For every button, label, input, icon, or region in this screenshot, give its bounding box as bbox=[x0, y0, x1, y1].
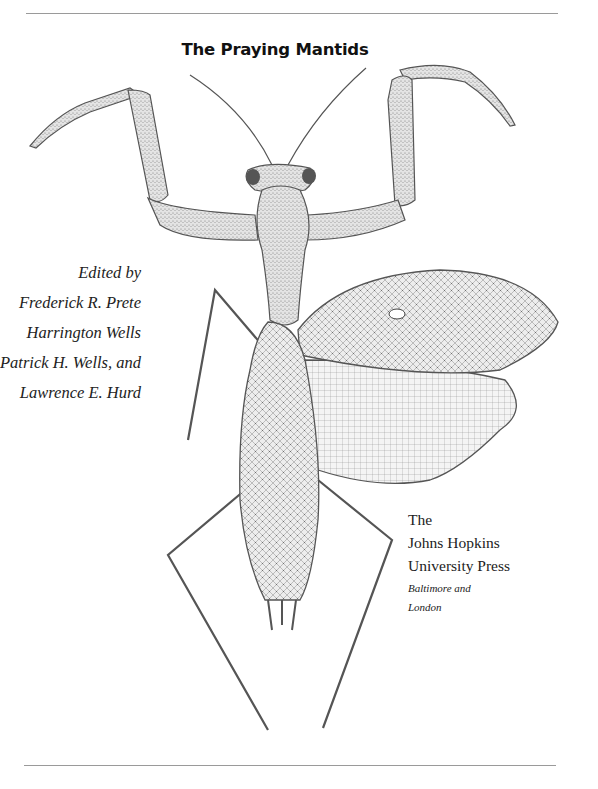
publisher-block: The Johns Hopkins University Press Balti… bbox=[408, 508, 510, 617]
right-hindleg bbox=[318, 480, 392, 728]
book-title: The Praying Mantids bbox=[150, 40, 400, 59]
publisher-line: Johns Hopkins bbox=[408, 531, 510, 554]
left-foreleg bbox=[30, 88, 258, 240]
antennae bbox=[190, 68, 366, 165]
publisher-city: London bbox=[408, 598, 510, 617]
publisher-line: University Press bbox=[408, 554, 510, 577]
publisher-line: The bbox=[408, 508, 510, 531]
editor-name: Frederick R. Prete bbox=[0, 288, 141, 318]
fore-wing bbox=[298, 270, 558, 373]
right-foreleg bbox=[305, 65, 515, 240]
publisher-city: Baltimore and bbox=[408, 579, 510, 598]
edited-by-label: Edited by bbox=[0, 258, 141, 288]
editor-name: Patrick H. Wells, and bbox=[0, 348, 141, 378]
cerci bbox=[268, 600, 296, 630]
hind-wing bbox=[300, 360, 516, 483]
editor-name: Harrington Wells bbox=[0, 318, 141, 348]
wing-spot bbox=[389, 309, 405, 319]
bottom-rule bbox=[24, 765, 556, 766]
pronotum bbox=[257, 186, 309, 325]
editors-block: Edited by Frederick R. Prete Harrington … bbox=[0, 258, 141, 408]
editor-name: Lawrence E. Hurd bbox=[0, 378, 141, 408]
